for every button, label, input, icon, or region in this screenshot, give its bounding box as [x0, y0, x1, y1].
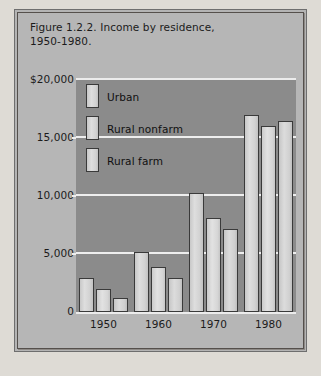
legend-label: Urban — [107, 91, 139, 103]
y-axis-tick-label: 0 — [67, 305, 74, 317]
chart-title: Figure 1.2.2. Income by residence, 1950-… — [30, 21, 245, 48]
y-axis-tick-label: 10,000 — [37, 189, 74, 201]
y-axis: $20,00015,00010,0005,0000 — [18, 70, 74, 322]
legend-item: Rural farm — [86, 148, 214, 174]
bar-rural-farm-1970 — [223, 229, 238, 312]
x-axis-tick-label: 1970 — [194, 318, 234, 330]
bar-rural-nonfarm-1980 — [261, 126, 276, 312]
legend-label: Rural farm — [107, 155, 163, 167]
y-axis-tick-label: 5,000 — [43, 247, 74, 259]
legend-item: Rural nonfarm — [86, 116, 214, 142]
bar-urban-1970 — [189, 193, 204, 312]
legend-swatch-icon — [86, 148, 99, 172]
bar-rural-nonfarm-1970 — [206, 218, 221, 312]
bar-rural-farm-1960 — [168, 278, 183, 312]
chart-legend: UrbanRural nonfarmRural farm — [86, 84, 214, 180]
legend-swatch-icon — [86, 84, 99, 108]
y-axis-tick-label: $20,000 — [30, 73, 74, 85]
x-axis-tick-label: 1960 — [139, 318, 179, 330]
legend-label: Rural nonfarm — [107, 123, 183, 135]
bar-urban-1960 — [134, 252, 149, 312]
legend-swatch-icon — [86, 116, 99, 140]
bar-urban-1950 — [79, 278, 94, 312]
x-axis-tick-label: 1950 — [84, 318, 124, 330]
bar-rural-farm-1980 — [278, 121, 293, 312]
x-axis: 1950196019701980 — [76, 318, 296, 336]
y-axis-tick-label: 15,000 — [37, 131, 74, 143]
bar-urban-1980 — [244, 115, 259, 312]
bar-rural-nonfarm-1960 — [151, 267, 166, 312]
legend-item: Urban — [86, 84, 214, 110]
bar-rural-nonfarm-1950 — [96, 289, 111, 312]
x-axis-tick-label: 1980 — [249, 318, 289, 330]
figure-container: Figure 1.2.2. Income by residence, 1950-… — [0, 0, 321, 376]
bar-rural-farm-1950 — [113, 298, 128, 313]
